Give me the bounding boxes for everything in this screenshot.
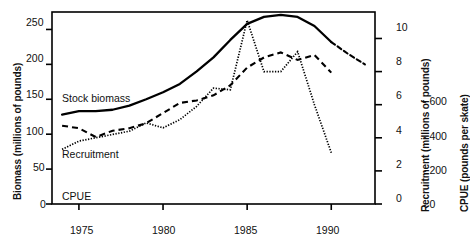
x-tick-1985: 1985 xyxy=(234,224,257,236)
cpue-tick-200: - 200 xyxy=(423,164,447,176)
recruitment-tick-2: 2 xyxy=(396,158,402,170)
series-label-recruitment: Recruitment xyxy=(62,148,119,160)
left-tick-100: 100 xyxy=(26,125,44,137)
series-label-cpue: CPUE xyxy=(62,190,91,202)
left-tick-0: 0 xyxy=(40,198,46,210)
recruitment-tick-6: 6 xyxy=(396,89,402,101)
x-tick-1990: 1990 xyxy=(316,224,339,236)
recruitment-tick-0: 0 xyxy=(396,192,402,204)
cpue-tick-600: - 600 xyxy=(423,95,447,107)
x-tick-1975: 1975 xyxy=(70,224,93,236)
cpue-tick-400: - 400 xyxy=(423,130,447,142)
left-axis-title: Biomass (millions of pounds) xyxy=(12,63,23,200)
recruitment-tick-10: 10 xyxy=(396,21,408,33)
cpue-axis-title: CPUE (pounds per skate) xyxy=(459,94,470,212)
left-tick-50: 50 xyxy=(33,161,45,173)
x-tick-1980: 1980 xyxy=(152,224,175,236)
left-tick-200: 200 xyxy=(26,52,44,64)
cpue-tick-0: - 0 xyxy=(423,198,435,210)
left-tick-250: 250 xyxy=(26,16,44,28)
recruitment-tick-8: 8 xyxy=(396,55,402,67)
plot-frame xyxy=(52,12,375,204)
left-tick-150: 150 xyxy=(26,88,44,100)
axis-ticks xyxy=(46,29,382,210)
recruitment-tick-4: 4 xyxy=(396,124,402,136)
series-label-stock-biomass: Stock biomass xyxy=(62,92,130,104)
series-line-recruitment xyxy=(62,20,331,152)
series-line-stock-biomass-projection xyxy=(331,42,365,64)
